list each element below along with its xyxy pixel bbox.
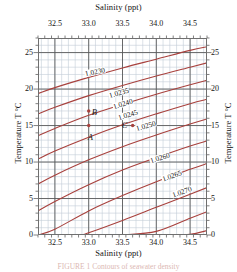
y-tick-label-right-20: 20 [211,84,225,93]
x-tick-label-top-34.0: 34.0 [143,19,169,28]
y-tick-label-right-25: 25 [211,48,225,57]
point-label-B: B [92,107,97,117]
y-tick-label-left-25: 25 [19,48,33,57]
x-tick-label-bottom-33.5: 33.5 [110,238,136,247]
x-tick-label-bottom-32.5: 32.5 [42,238,68,247]
x-tick-label-bottom-34.5: 34.5 [177,238,203,247]
contour-curve-1.0275 [166,231,207,235]
top-axis-title: Salinity (ppt) [0,2,237,12]
x-tick-label-bottom-33.0: 33.0 [76,238,102,247]
y-tick-label-left-5: 5 [19,194,33,203]
y-tick-label-right-5: 5 [211,194,225,203]
data-point-A[interactable] [87,124,90,127]
point-label-C: C [122,120,128,130]
point-label-A: A [88,132,93,142]
bottom-axis-title: Salinity (ppt) [0,248,237,258]
contour-plot-svg [38,38,207,235]
y-tick-label-right-10: 10 [211,157,225,166]
figure-container: Salinity (ppt) Salinity (ppt) Temperatur… [0,0,237,272]
x-tick-label-top-33.0: 33.0 [76,19,102,28]
y-tick-label-left-0: 0 [19,230,33,239]
data-point-B[interactable] [87,109,90,112]
contour-plot-area [38,38,207,235]
x-tick-label-top-32.5: 32.5 [42,19,68,28]
y-tick-label-right-0: 0 [211,230,225,239]
x-tick-label-bottom-34.0: 34.0 [143,238,169,247]
y-tick-label-right-15: 15 [211,121,225,130]
x-tick-label-top-34.5: 34.5 [177,19,203,28]
y-tick-label-left-15: 15 [19,121,33,130]
x-tick-label-top-33.5: 33.5 [110,19,136,28]
y-tick-label-left-20: 20 [19,84,33,93]
y-tick-label-left-10: 10 [19,157,33,166]
figure-caption: FIGURE 1 Contours of seawater density [0,262,237,271]
